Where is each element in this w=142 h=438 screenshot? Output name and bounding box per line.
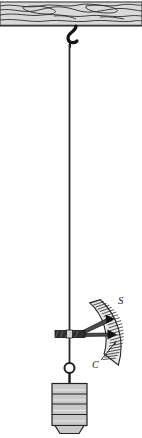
- callout-label-c: C: [92, 360, 99, 370]
- clamp-block: [55, 330, 85, 338]
- hanging-weight: [52, 363, 87, 434]
- apparatus-diagram: [0, 0, 142, 438]
- s-hook-icon: [68, 26, 77, 47]
- scale-label-s: S: [118, 295, 124, 306]
- arc-scale: [90, 300, 124, 366]
- wooden-beam: [0, 2, 142, 26]
